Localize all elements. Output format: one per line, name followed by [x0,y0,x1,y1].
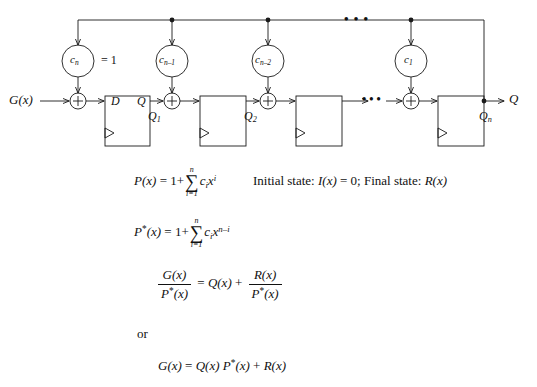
product-p-base: P [223,358,231,373]
division-plus: + [235,275,242,290]
sigma-icon: ∑ [190,225,204,241]
sum-lower-limit: i=1 [185,190,199,199]
state-output-label-qn: Qn [479,110,492,125]
bus-junction-dot-1 [170,18,175,23]
initial-state-value: = 0; [337,173,364,188]
sum-lower-limit: i=1 [190,241,204,250]
figure-canvas: G(x) Q cn = 1 cn–1 cn–2 c1 D Q Q1 Q2 Qn … [0,0,537,387]
product-equals: = [185,358,192,373]
state-base: Q [244,109,253,123]
xor-plus-1 [73,96,83,106]
xor-plus-2 [167,96,177,106]
sum-term-x-sup: n–i [218,224,229,234]
xor-plus-4 [406,96,416,106]
product-remainder: R(x) [264,358,286,373]
coefficient-sub: n–2 [260,58,271,67]
clock-triangle-4 [438,128,447,138]
state-sub: n [488,115,492,124]
flipflop-box-4 [438,96,484,146]
summation-operator: n∑i=1 [185,166,199,199]
division-quotient: Q(x) [208,275,232,290]
fraction-numerator: R(x) [249,267,282,285]
state-output-label-q1: Q1 [148,110,161,125]
c-n-equals-one-note: = 1 [101,54,117,66]
state-sub: 2 [253,115,257,124]
equation-p-star-of-x: P*(x) = 1+n∑i=1cixn–i [134,217,230,250]
ff1-d-pin-label: D [111,95,120,107]
pstar-lhs-base: P [134,224,142,239]
product-lhs: G(x) [158,358,182,373]
datapath-ellipsis: • • • [362,93,381,105]
clock-triangle-3 [296,128,305,138]
clock-triangle-1 [105,128,114,138]
initial-state-prefix: Initial state: [253,173,318,188]
product-p-arg: (x) [235,358,249,373]
or-connector: or [137,326,148,342]
final-state-expr: R(x) [425,173,447,188]
fraction-denominator: P*(x) [158,285,191,302]
coefficient-sub: 1 [409,58,413,67]
fraction-denominator: P*(x) [249,285,282,302]
p-equals: = [160,173,167,188]
ff1-q-pin-label: Q [137,95,146,107]
pstar-lhs-arg: (x) [147,224,161,239]
initial-state-expr: I(x) [318,173,337,188]
output-tap-dot [482,99,487,104]
coefficient-label-c-n-minus-1: cn–1 [159,54,175,67]
bus-junction-dot-2 [266,18,271,23]
sum-term-x-sup: i [214,173,216,183]
equation-division: G(x) P*(x) = Q(x) + R(x) P*(x) [155,267,285,302]
bus-ellipsis: • • • [344,12,369,25]
pstar-one-plus: 1+ [175,224,189,239]
p-lhs-base: P [134,173,142,188]
final-state-prefix: Final state: [364,173,425,188]
fraction-gx-over-pstar: G(x) P*(x) [158,267,191,302]
state-base: Q [479,109,488,123]
clock-triangle-2 [200,128,209,138]
state-base: Q [148,109,157,123]
coefficient-label-c-n: cn [70,54,79,67]
coefficient-sub: n [75,58,79,67]
state-note: Initial state: I(x) = 0; Final state: R(… [253,173,447,189]
state-output-label-q2: Q2 [244,110,257,125]
p-one-plus: 1+ [170,173,184,188]
input-label-gx: G(x) [9,93,33,106]
bus-junction-dot-3 [409,18,414,23]
state-sub: 1 [157,115,161,124]
den-arg: (x) [174,286,188,301]
p-lhs-arg: (x) [142,173,156,188]
equation-p-of-x: P(x) = 1+n∑i=1cixi [134,166,216,199]
product-plus: + [253,358,260,373]
den-base: P [161,286,169,301]
xor-plus-3 [263,96,273,106]
product-quotient: Q(x) [196,358,220,373]
coefficient-label-c-1: c1 [404,54,413,67]
summation-operator: n∑i=1 [190,217,204,250]
pstar-equals: = [164,224,171,239]
coefficient-sub: n–1 [164,58,175,67]
fraction-rx-over-pstar: R(x) P*(x) [249,267,282,302]
flipflop-box-2 [200,96,246,146]
equation-product-form: G(x) = Q(x) P*(x) + R(x) [158,358,286,374]
coefficient-label-c-n-minus-2: cn–2 [255,54,271,67]
division-equals: = [197,275,204,290]
fraction-numerator: G(x) [158,267,191,285]
output-label-q: Q [509,92,518,105]
sigma-icon: ∑ [185,174,199,190]
den-base: P [252,286,260,301]
den-arg: (x) [264,286,278,301]
flipflop-box-3 [296,96,342,146]
